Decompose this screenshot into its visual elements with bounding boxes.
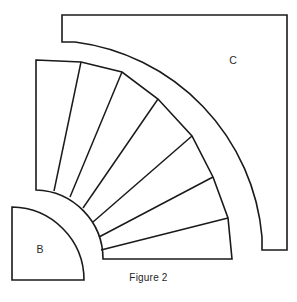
region-b-shape bbox=[12, 207, 84, 280]
figure-caption: Figure 2 bbox=[0, 272, 297, 283]
figure-drawing: C B bbox=[0, 0, 297, 302]
region-b-label: B bbox=[36, 243, 43, 255]
figure-container: C B Figure 2 bbox=[0, 0, 297, 302]
region-c-label: C bbox=[229, 54, 237, 66]
